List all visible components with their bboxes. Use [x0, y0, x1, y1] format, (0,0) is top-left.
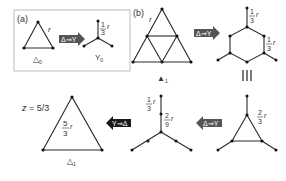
caption-delta1: △1: [67, 157, 76, 167]
svg-text:r: r: [153, 98, 156, 105]
svg-text:Y⇒Δ: Y⇒Δ: [112, 120, 128, 127]
svg-text:3: 3: [147, 105, 151, 112]
hexagon-network: [218, 8, 276, 62]
panel-b-label: (b): [133, 8, 144, 18]
svg-text:3: 3: [63, 129, 68, 138]
delta-wye-diagram: (a) r △0 Δ⇒Y 1 3 r Y0 (b) r ▲1: [0, 0, 286, 181]
arrow-delta-to-y-b: Δ⇒Y: [194, 26, 220, 40]
triangle-delta1: [43, 97, 102, 150]
triangle-delta1-nodes: [41, 95, 103, 151]
fraction-2-9-r: 2 9 r: [164, 112, 174, 128]
svg-text:r: r: [107, 23, 110, 30]
z-value-label: z = 5/3: [21, 103, 49, 113]
svg-text:Δ⇒Y: Δ⇒Y: [203, 120, 219, 127]
svg-text:1: 1: [101, 21, 105, 28]
panel-a-label: (a): [17, 14, 28, 24]
svg-text:r: r: [70, 123, 73, 130]
svg-text:r: r: [264, 112, 267, 119]
svg-text:2: 2: [258, 109, 262, 116]
star-with-midpoints: [132, 96, 191, 150]
caption-delta0: △0: [33, 55, 42, 65]
svg-text:5: 5: [63, 119, 68, 128]
fraction-hex-side: 1 3 r: [266, 36, 276, 52]
equivalence-symbol: [243, 70, 251, 81]
svg-text:2: 2: [165, 112, 169, 119]
svg-text:r: r: [171, 115, 174, 122]
arrow-delta-to-y-a: Δ⇒Y: [59, 32, 85, 46]
edge-label-r-b: r: [149, 15, 152, 24]
svg-text:3: 3: [267, 45, 271, 52]
fraction-5-3-r: 5 3 r: [62, 119, 73, 138]
fraction-1-3-r-bottom: 1 3 r: [146, 96, 156, 112]
svg-text:1: 1: [267, 36, 271, 43]
svg-text:Δ⇒Y: Δ⇒Y: [196, 30, 212, 37]
arrow-delta-to-y-bottom: Δ⇒Y: [196, 116, 222, 130]
small-triangle-with-arms: [218, 96, 276, 150]
svg-text:3: 3: [101, 29, 105, 36]
fraction-hex-top: 1 3 r: [249, 8, 259, 24]
svg-text:3: 3: [250, 17, 254, 24]
svg-text:3: 3: [258, 118, 262, 125]
caption-filled-delta1: ▲1: [157, 74, 168, 84]
arrow-y-to-delta: Y⇒Δ: [106, 116, 131, 130]
fraction-2-3-r: 2 3 r: [257, 109, 267, 125]
svg-text:r: r: [273, 39, 276, 46]
svg-text:Δ⇒Y: Δ⇒Y: [61, 36, 77, 43]
svg-text:9: 9: [165, 121, 169, 128]
edge-label-r-a: r: [48, 25, 51, 34]
svg-text:1: 1: [147, 96, 151, 103]
svg-text:r: r: [256, 11, 259, 18]
svg-text:1: 1: [250, 8, 254, 15]
caption-y0: Y0: [95, 53, 103, 63]
fraction-1-3-r-a: 1 3 r: [100, 21, 110, 36]
